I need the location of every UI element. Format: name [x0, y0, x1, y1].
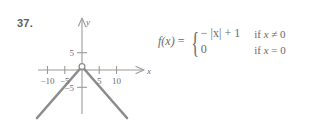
case-2-expression: 0	[201, 42, 240, 57]
case-1-relation: ≠	[271, 28, 277, 40]
case-2-variable: x	[264, 44, 269, 56]
x-axis	[38, 67, 144, 74]
equals-sign: =	[178, 34, 185, 49]
case-1-condition: if x ≠ 0	[254, 28, 286, 40]
piecewise-function-formula: f(x) = { − |x| + 1 if x ≠ 0 0 if x = 0	[158, 26, 286, 57]
function-name: f(x)	[158, 34, 175, 49]
graph-svg: x y −10 −5 5 10 5 −5	[30, 10, 160, 122]
case-1-if: if	[254, 28, 261, 40]
open-circle-marker	[79, 64, 85, 70]
x-axis-label: x	[146, 66, 151, 76]
y-tick-label-5: 5	[70, 48, 75, 58]
x-tick-label-5: 5	[97, 76, 102, 86]
case-2-relation: =	[271, 44, 277, 56]
case-2-value: 0	[280, 44, 286, 56]
x-tick-label-10: 10	[112, 76, 122, 86]
case-1-value: 0	[280, 28, 286, 40]
x-tick-label--10: −10	[40, 76, 55, 86]
case-2-if: if	[254, 44, 261, 56]
case-1-variable: x	[264, 28, 269, 40]
case-2-condition: if x = 0	[254, 44, 286, 56]
case-1-expression: − |x| + 1	[201, 26, 240, 41]
y-axis-label: y	[85, 17, 90, 27]
exercise-figure: 37.	[0, 0, 322, 127]
coordinate-graph: x y −10 −5 5 10 5 −5	[30, 10, 160, 122]
cases-block: − |x| + 1 if x ≠ 0 0 if x = 0	[201, 26, 286, 57]
y-tick-label--5: −5	[64, 83, 74, 93]
left-brace: {	[192, 29, 200, 55]
